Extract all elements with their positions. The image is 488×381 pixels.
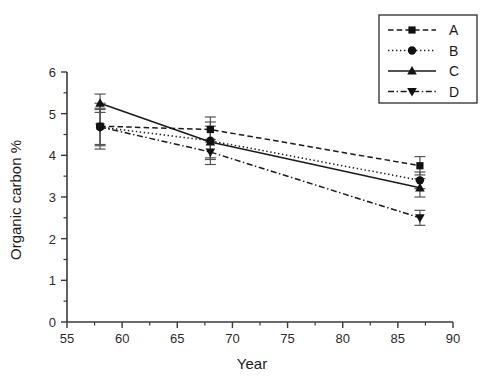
x-axis-title: Year [237,355,267,372]
x-axis-tick-label: 70 [225,331,239,346]
y-axis-tick-label: 6 [49,65,56,80]
y-axis-tick-label: 4 [49,148,56,163]
legend-label-A: A [449,22,459,38]
y-axis-tick-label: 3 [49,190,56,205]
x-axis-tick-label: 90 [446,331,460,346]
y-axis-tick-label: 1 [49,273,56,288]
legend-label-D: D [449,84,459,100]
x-axis-tick-label: 55 [60,331,74,346]
chart-figure: 0123456 5560657075808590 Organic carbon … [0,0,488,381]
data-marker-square [207,126,214,133]
x-axis-tick-label: 80 [335,331,349,346]
y-axis-tick-label: 5 [49,107,56,122]
x-axis-tick-label: 65 [170,331,184,346]
data-marker-circle [408,46,416,54]
x-axis-tick-label: 60 [115,331,129,346]
organic-carbon-line-chart: 0123456 5560657075808590 Organic carbon … [0,0,488,381]
legend-label-C: C [449,63,459,79]
legend[interactable]: ABCD [379,15,477,103]
legend-box [379,15,477,103]
data-marker-square [416,162,423,169]
x-axis-tick-label: 75 [280,331,294,346]
y-axis-tick-label: 0 [49,315,56,330]
y-axis-tick-label: 2 [49,232,56,247]
y-axis-title: Organic carbon % [7,140,24,260]
legend-label-B: B [449,43,458,59]
x-axis-tick-label: 85 [391,331,405,346]
data-marker-square [408,26,415,33]
